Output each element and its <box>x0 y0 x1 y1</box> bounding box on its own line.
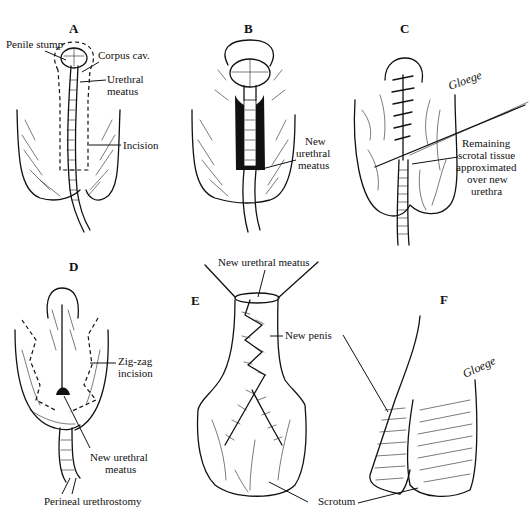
panel-c: C Gloege Remaining scrotal tissue approx… <box>354 21 528 245</box>
leader-d-perineal <box>62 478 76 494</box>
leader-scrotum-f <box>358 488 418 503</box>
panel-b: B New urethral meatus <box>192 21 330 232</box>
panel-d-top <box>47 288 78 318</box>
panel-c-signature: Gloege <box>446 68 484 93</box>
leader-c-remaining <box>412 157 458 164</box>
label-d-perineal: Perineal urethrostomy <box>44 495 142 507</box>
panel-d-meatus <box>56 388 70 396</box>
leader-f-new-penis <box>343 335 388 412</box>
label-c-5: urethra <box>471 185 502 197</box>
panel-c-hatching <box>362 95 446 210</box>
label-d-new-meatus-1: New urethral <box>90 451 148 463</box>
panel-e-retractor-left <box>205 265 235 297</box>
panel-f: F Gloege <box>343 292 498 496</box>
label-c-1: Remaining <box>462 137 511 149</box>
panel-b-urethra-top <box>244 86 256 100</box>
panel-d-zigzag-left <box>22 320 55 410</box>
label-c-4: over new <box>467 173 508 185</box>
panel-e-letter: E <box>191 293 200 308</box>
label-corpus-cav: Corpus cav. <box>98 49 150 61</box>
panel-b-letter: B <box>244 21 253 36</box>
label-c-3: approximated <box>456 161 517 173</box>
label-d-new-meatus-2: meatus <box>105 463 136 475</box>
label-urethral-meatus-2: meatus <box>107 85 138 97</box>
panel-d: D Zig-zag incision New urethral meatus P… <box>15 259 153 507</box>
panel-b-urethra-lower <box>243 170 260 232</box>
label-penile-stump: Penile stump <box>6 38 64 50</box>
label-b-new-3: meatus <box>298 159 329 171</box>
surgical-illustration: A Penile stump Corpus cav. Urethral meat… <box>0 0 530 516</box>
panel-b-corpus <box>232 59 268 87</box>
panel-a-urethra-right <box>75 66 90 230</box>
label-scrotum: Scrotum <box>318 495 356 507</box>
panel-a-letter: A <box>69 21 79 36</box>
panel-a-corpus <box>64 48 84 66</box>
leader-urethral-meatus <box>80 80 106 82</box>
panel-f-signature: Gloege <box>460 353 498 381</box>
label-b-new-2: urethral <box>296 147 330 159</box>
panel-e-suture-right <box>252 390 282 445</box>
panel-d-letter: D <box>69 259 78 274</box>
panel-e-new-meatus <box>235 293 279 303</box>
leader-scrotum-e <box>269 482 308 502</box>
label-c-2: scrotal tissue <box>458 149 515 161</box>
panel-b-glans-cap <box>225 40 273 66</box>
panel-e: E New urethral meatus New penis <box>191 256 332 496</box>
panel-d-scrotum-right <box>75 330 108 430</box>
label-incision: Incision <box>123 139 159 151</box>
label-e-new-urethral-meatus: New urethral meatus <box>218 256 310 268</box>
label-d-zigzag-2: incision <box>118 367 153 379</box>
panel-d-zigzag-right <box>70 318 98 412</box>
label-d-zigzag-1: Zig-zag <box>118 355 153 367</box>
panel-c-urethra <box>397 160 409 245</box>
panel-d-urethra <box>59 428 80 482</box>
label-urethral-meatus-1: Urethral <box>107 73 144 85</box>
panel-c-letter: C <box>400 21 409 36</box>
panel-d-scrotum-left <box>15 330 80 430</box>
panel-a: A Penile stump Corpus cav. Urethral meat… <box>6 21 159 232</box>
label-b-new-1: New <box>305 135 326 147</box>
label-e-new-penis: New penis <box>285 329 332 341</box>
panel-f-hatching <box>375 400 472 482</box>
panel-f-letter: F <box>440 292 448 307</box>
